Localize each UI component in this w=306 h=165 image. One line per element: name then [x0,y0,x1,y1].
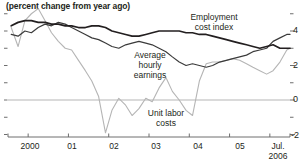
x-axis-label-03: 03 [135,141,177,151]
y-axis-label-4: 4 [293,25,298,35]
y-axis-label-0: 0 [293,94,298,104]
series-label-ahe-line2: hourly [118,60,182,70]
series-label-employment-cost-index: Employment cost index [178,12,250,32]
series-label-average-hourly-earnings: Average hourly earnings [118,50,182,80]
series-label-unit-labor-costs: Unit labor costs [133,108,199,128]
series-label-ulc-line2: costs [133,118,199,128]
chart-container: (percent change from year ago) 4 2 0 -2 … [0,0,306,165]
x-axis-label-02: 02 [93,141,135,151]
x-axis-label-2006: 2006 [262,151,294,161]
y-axis-label-2: 2 [293,60,298,70]
series-label-ahe-line3: earnings [118,70,182,80]
series-label-ahe-line1: Average [118,50,182,60]
series-label-eci-line1: Employment [178,12,250,22]
x-axis-label-04: 04 [177,141,219,151]
x-axis-label-jul: Jul. [262,141,294,151]
x-axis-label-01: 01 [51,141,93,151]
series-label-eci-line2: cost index [178,22,250,32]
series-label-ulc-line1: Unit labor [133,108,199,118]
y-axis-label-minus2: -2 [291,130,299,140]
x-axis-label-2000: 2000 [9,141,51,151]
x-axis-label-05: 05 [219,141,261,151]
